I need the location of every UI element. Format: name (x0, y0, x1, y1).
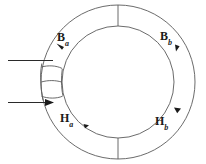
field-symbol-Ba: B (57, 30, 65, 44)
Hb-direction-arrowhead (174, 108, 181, 114)
Bb-direction-arrowhead (175, 45, 180, 52)
field-label-Bb: Bb (160, 30, 172, 45)
field-label-Ha: Ha (60, 112, 73, 127)
field-label-Hb: Hb (155, 115, 168, 130)
gap-outer-lower-arc (41, 82, 43, 101)
field-subscript-Bb: b (168, 38, 172, 47)
field-subscript-Ba: a (65, 39, 69, 48)
magnetic-circuit-diagram (0, 0, 206, 164)
lead-conductors (8, 61, 53, 103)
field-subscript-Ha: a (69, 120, 73, 129)
field-symbol-Hb: H (155, 114, 164, 128)
field-subscript-Hb: b (164, 123, 168, 132)
field-symbol-Ha: H (60, 111, 69, 125)
outer-core-circle (41, 5, 195, 159)
gap-bridge-upper (42, 66, 63, 69)
field-symbol-Bb: B (160, 29, 168, 43)
gap-bridge-lower (42, 96, 63, 98)
figure-container: Ba Bb Ha Hb (0, 0, 206, 164)
core-outlines (41, 5, 195, 159)
gap-slot-divider (41, 81, 61, 82)
field-label-Ba: Ba (57, 31, 69, 46)
core-gap-region (41, 64, 63, 101)
